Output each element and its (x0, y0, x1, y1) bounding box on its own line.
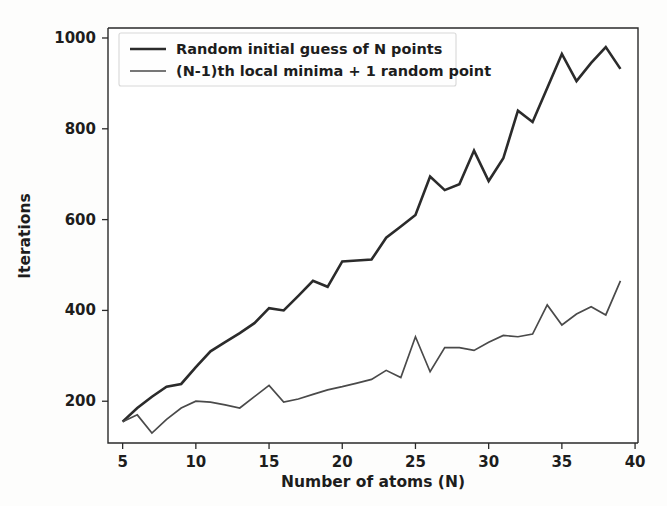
x-tick-label-7: 40 (625, 453, 646, 471)
x-axis-title: Number of atoms (N) (281, 473, 465, 491)
x-tick-label-5: 30 (478, 453, 499, 471)
x-tick-label-4: 25 (405, 453, 426, 471)
x-tick-label-2: 15 (259, 453, 280, 471)
x-tick-label-6: 35 (551, 453, 572, 471)
line-chart: 2004006008001000 510152025303540 Number … (0, 0, 667, 506)
legend-label-series-1: (N-1)th local minima + 1 random point (176, 63, 491, 79)
y-tick-label-0: 200 (65, 392, 96, 410)
legend-label-series-0: Random initial guess of N points (176, 41, 442, 57)
y-tick-label-1: 400 (65, 301, 96, 319)
x-tick-label-3: 20 (332, 453, 353, 471)
y-tick-label-4: 1000 (54, 29, 96, 47)
y-axis-title: Iterations (16, 193, 34, 278)
x-tick-label-1: 10 (185, 453, 206, 471)
legend: Random initial guess of N points (N-1)th… (119, 33, 491, 86)
y-tick-label-2: 600 (65, 211, 96, 229)
chart-figure: 2004006008001000 510152025303540 Number … (0, 0, 667, 506)
plot-area-background (108, 28, 638, 443)
y-tick-label-3: 800 (65, 120, 96, 138)
x-tick-label-0: 5 (117, 453, 127, 471)
